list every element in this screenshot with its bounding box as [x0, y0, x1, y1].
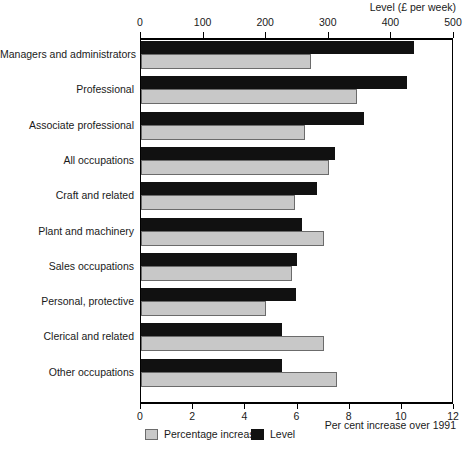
- bar-percentage-increase: [141, 301, 266, 316]
- top-axis-tick-label: 300: [319, 16, 337, 28]
- bar-percentage-increase: [141, 231, 324, 246]
- bar-level: [141, 41, 414, 54]
- bar-group: All occupations: [0, 147, 464, 177]
- top-axis-tick: [140, 32, 141, 38]
- top-axis-tick-label: 500: [444, 16, 462, 28]
- bar-level: [141, 359, 282, 372]
- category-label: All occupations: [0, 154, 134, 166]
- bar-group: Other occupations: [0, 359, 464, 389]
- bar-group: Personal, protective: [0, 288, 464, 318]
- bar-group: Clerical and related: [0, 323, 464, 353]
- top-axis-tick: [390, 32, 391, 38]
- bar-percentage-increase: [141, 89, 357, 104]
- category-label: Craft and related: [0, 189, 134, 201]
- chart-legend: Percentage increase Level: [0, 428, 464, 446]
- bar-level: [141, 76, 407, 89]
- bottom-axis-tick: [453, 404, 454, 409]
- black-square-swatch: [251, 429, 264, 440]
- top-axis-tick-label: 200: [256, 16, 274, 28]
- legend-entry-percentage-increase: Percentage increase: [145, 428, 260, 440]
- category-label: Managers and administrators: [0, 48, 134, 60]
- bar-group: Managers and administrators: [0, 41, 464, 71]
- category-label: Plant and machinery: [0, 225, 134, 237]
- bar-level: [141, 218, 302, 231]
- category-label: Professional: [0, 83, 134, 95]
- bottom-axis-tick-label: 4: [241, 410, 247, 422]
- category-label: Clerical and related: [0, 330, 134, 342]
- bar-level: [141, 253, 297, 266]
- bottom-axis-tick-label: 2: [189, 410, 195, 422]
- bottom-axis-tick: [192, 404, 193, 409]
- bar-level: [141, 323, 282, 336]
- top-axis-tick-label: 400: [382, 16, 400, 28]
- bar-group: Sales occupations: [0, 253, 464, 283]
- bottom-axis-tick: [244, 404, 245, 409]
- bar-group: Professional: [0, 76, 464, 106]
- bottom-axis-tick-label: 0: [137, 410, 143, 422]
- category-label: Associate professional: [0, 119, 134, 131]
- bar-percentage-increase: [141, 336, 324, 351]
- bar-percentage-increase: [141, 54, 311, 69]
- bar-percentage-increase: [141, 266, 292, 281]
- bar-percentage-increase: [141, 160, 329, 175]
- bar-level: [141, 112, 364, 125]
- bar-group: Craft and related: [0, 182, 464, 212]
- bar-percentage-increase: [141, 372, 337, 387]
- bar-percentage-increase: [141, 195, 295, 210]
- grey-square-swatch: [145, 429, 158, 440]
- top-axis-tick: [265, 32, 266, 38]
- category-label: Other occupations: [0, 366, 134, 378]
- bar-group: Associate professional: [0, 112, 464, 142]
- top-axis-tick: [203, 32, 204, 38]
- bottom-axis-tick-label: 6: [294, 410, 300, 422]
- bar-percentage-increase: [141, 125, 305, 140]
- top-axis-tick: [453, 32, 454, 38]
- bar-group: Plant and machinery: [0, 218, 464, 248]
- top-axis-tick-label: 0: [137, 16, 143, 28]
- bar-level: [141, 147, 335, 160]
- top-axis-tick-label: 100: [194, 16, 212, 28]
- category-label: Sales occupations: [0, 260, 134, 272]
- bar-level: [141, 182, 317, 195]
- bottom-axis-tick: [349, 404, 350, 409]
- legend-label-level: Level: [270, 428, 295, 440]
- bottom-axis-tick: [297, 404, 298, 409]
- top-axis-tick: [328, 32, 329, 38]
- legend-label-percentage-increase: Percentage increase: [164, 428, 260, 440]
- top-axis-title: Level (£ per week): [370, 1, 456, 13]
- legend-entry-level: Level: [251, 428, 295, 440]
- category-label: Personal, protective: [0, 295, 134, 307]
- bottom-axis-tick: [140, 404, 141, 409]
- bar-level: [141, 288, 296, 301]
- bottom-axis-tick: [401, 404, 402, 409]
